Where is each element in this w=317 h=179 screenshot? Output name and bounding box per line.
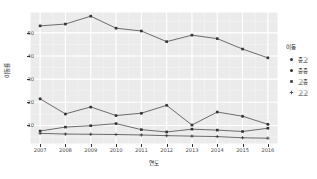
plot-panel (30, 12, 278, 144)
square-small-icon (286, 76, 297, 87)
x-tick-label: 2010 (110, 147, 123, 153)
y-tick-mark (27, 56, 30, 57)
x-tick-mark (40, 144, 41, 147)
legend-title: 이동 (286, 43, 317, 51)
legend: 이동 중고중중고중고고 (286, 43, 317, 98)
legend-item-label: 고고 (298, 89, 308, 97)
circle-small-icon (286, 65, 297, 76)
x-tick-label: 2013 (186, 147, 199, 153)
x-tick-mark (217, 144, 218, 147)
legend-items: 중고중중고중고고 (286, 54, 317, 98)
x-tick-label: 2009 (84, 147, 97, 153)
legend-item-label: 중중 (298, 67, 308, 75)
x-tick-mark (243, 144, 244, 147)
x-tick-mark (91, 144, 92, 147)
x-axis-title: 연도 (30, 159, 278, 167)
y-tick-mark (27, 125, 30, 126)
legend-item-고중[interactable]: 고중 (286, 76, 317, 87)
y-tick-mark (27, 33, 30, 34)
x-tick-label: 2008 (59, 147, 72, 153)
circle-small-icon (286, 54, 297, 65)
legend-item-중중[interactable]: 중중 (286, 65, 317, 76)
legend-item-label: 중고 (298, 56, 308, 64)
legend-item-고고[interactable]: 고고 (286, 87, 317, 98)
x-tick-mark (167, 144, 168, 147)
legend-item-중고[interactable]: 중고 (286, 54, 317, 65)
x-tick-mark (116, 144, 117, 147)
y-tick-mark (27, 79, 30, 80)
x-tick-label: 2011 (135, 147, 148, 153)
x-tick-label: 2012 (160, 147, 173, 153)
plot-canvas (30, 12, 278, 144)
x-tick-label: 2015 (236, 147, 249, 153)
x-tick-mark (268, 144, 269, 147)
x-tick-mark (192, 144, 193, 147)
chart-root: 5040302010 20072008200920102011201220132… (0, 0, 317, 179)
x-tick-label: 2016 (261, 147, 274, 153)
y-tick-mark (27, 102, 30, 103)
y-axis-title: 이동률 (3, 50, 11, 90)
legend-item-label: 고중 (298, 78, 308, 86)
plus-small-icon (286, 87, 297, 98)
x-tick-label: 2007 (34, 147, 47, 153)
x-tick-mark (65, 144, 66, 147)
x-tick-mark (141, 144, 142, 147)
x-tick-label: 2014 (211, 147, 224, 153)
